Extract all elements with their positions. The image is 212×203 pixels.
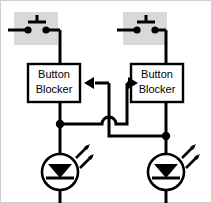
left-button-blocker[interactable]: Button Blocker	[28, 64, 80, 102]
right-button-blocker-label-line2: Blocker	[139, 83, 176, 95]
right-pushbutton-terminal-a	[133, 26, 140, 33]
right-led-emission-arrows	[182, 144, 200, 168]
schematic-canvas: Button Blocker Button Blocker	[0, 0, 212, 203]
left-pushbutton-terminal-a	[24, 26, 31, 33]
left-input-arrow-head	[84, 77, 94, 89]
button-blocker-circuit-diagram: Button Blocker Button Blocker	[0, 0, 212, 203]
right-led	[148, 144, 200, 190]
left-button-blocker-label-line2: Blocker	[36, 83, 73, 95]
left-led-emission-arrows	[76, 144, 94, 168]
left-button-blocker-label-line1: Button	[38, 68, 70, 80]
right-button-blocker-label-line1: Button	[141, 68, 173, 80]
left-led	[42, 144, 94, 190]
left-output-junction-dot	[56, 120, 64, 128]
right-output-junction-dot	[162, 132, 170, 140]
right-button-blocker[interactable]: Button Blocker	[131, 64, 183, 102]
